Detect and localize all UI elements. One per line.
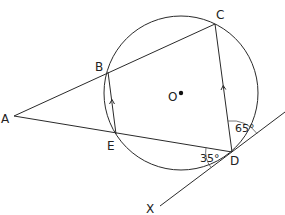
chord-BE — [108, 72, 116, 134]
label-X: X — [146, 202, 154, 215]
line-AD — [14, 116, 232, 152]
label-A: A — [1, 112, 10, 126]
chord-CD — [215, 24, 232, 152]
label-C: C — [216, 8, 224, 22]
circle-geometry-diagram: A B C D E O X 35° 65° — [0, 0, 285, 215]
label-O: O — [168, 90, 177, 104]
line-AC — [14, 24, 215, 116]
centre-dot — [179, 91, 183, 95]
angle-label-35: 35° — [200, 152, 220, 165]
label-E: E — [107, 139, 115, 153]
angle-label-65: 65° — [235, 122, 255, 135]
tangent-line-XD — [160, 112, 285, 206]
label-B: B — [95, 60, 103, 74]
label-D: D — [230, 154, 239, 168]
